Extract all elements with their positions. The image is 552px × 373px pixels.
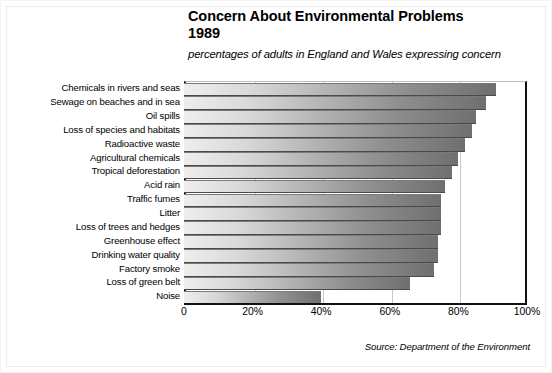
bar-row bbox=[184, 81, 527, 95]
plot-wrapper bbox=[184, 81, 527, 303]
x-tick-label: 60% bbox=[379, 306, 400, 317]
category-label: Oil spills bbox=[10, 110, 180, 121]
category-label: Traffic fumes bbox=[10, 193, 180, 204]
bar-row bbox=[184, 109, 527, 123]
bar-row bbox=[184, 220, 527, 234]
category-label: Tropical deforestation bbox=[10, 165, 180, 176]
chart-title: Concern About Environmental Problems 198… bbox=[188, 8, 533, 42]
chart-subtitle: percentages of adults in England and Wal… bbox=[188, 48, 533, 60]
category-axis-labels: Chemicals in rivers and seasSewage on be… bbox=[10, 81, 180, 303]
category-label: Noise bbox=[10, 290, 180, 301]
bar-row bbox=[184, 248, 527, 262]
x-tick-label: 20% bbox=[242, 306, 263, 317]
category-label: Litter bbox=[10, 207, 180, 218]
x-tick-label: 100% bbox=[514, 306, 541, 317]
category-label: Drinking water quality bbox=[10, 249, 180, 260]
x-axis-line bbox=[184, 303, 527, 305]
x-axis-tick-labels: 020%40%60%80%100% bbox=[184, 306, 544, 322]
category-label: Radioactive waste bbox=[10, 138, 180, 149]
bar-row bbox=[184, 137, 527, 151]
category-label: Loss of species and habitats bbox=[10, 124, 180, 135]
bar-series bbox=[184, 81, 527, 303]
title-block: Concern About Environmental Problems 198… bbox=[188, 8, 533, 60]
bar-row bbox=[184, 192, 527, 206]
bar-row bbox=[184, 178, 527, 192]
category-label: Chemicals in rivers and seas bbox=[10, 82, 180, 93]
bar-row bbox=[184, 95, 527, 109]
category-label: Agricultural chemicals bbox=[10, 152, 180, 163]
x-tick-label: 40% bbox=[311, 306, 332, 317]
bar-row bbox=[184, 206, 527, 220]
category-label: Sewage on beaches and in sea bbox=[10, 96, 180, 107]
source-note: Source: Department of the Environment bbox=[365, 341, 530, 352]
bar-row bbox=[184, 289, 527, 303]
bar-row bbox=[184, 150, 527, 164]
category-label: Loss of trees and hedges bbox=[10, 221, 180, 232]
bar-row bbox=[184, 164, 527, 178]
x-tick-label: 80% bbox=[448, 306, 469, 317]
category-label: Factory smoke bbox=[10, 263, 180, 274]
bar-row bbox=[184, 234, 527, 248]
category-label: Loss of green belt bbox=[10, 276, 180, 287]
x-tick-label: 0 bbox=[181, 306, 187, 317]
bar-row bbox=[184, 275, 527, 289]
category-label: Acid rain bbox=[10, 179, 180, 190]
category-label: Greenhouse effect bbox=[10, 235, 180, 246]
bar-row bbox=[184, 123, 527, 137]
bar-row bbox=[184, 261, 527, 275]
chart-figure: Concern About Environmental Problems 198… bbox=[0, 0, 552, 373]
